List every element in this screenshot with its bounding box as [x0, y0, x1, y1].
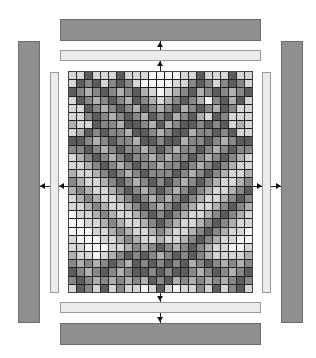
grid-cell: [141, 146, 148, 153]
grid-cell: [157, 219, 164, 226]
grid-cell: [141, 105, 148, 112]
grid-cell: [149, 121, 156, 128]
grid-cell: [157, 211, 164, 218]
grid-cell: [221, 105, 228, 112]
grid-cell: [173, 162, 180, 169]
grid-cell: [141, 285, 148, 292]
grid-cell: [141, 228, 148, 235]
grid-cell: [149, 260, 156, 267]
grid-cell: [213, 162, 220, 169]
grid-cell: [229, 187, 236, 194]
grid-cell: [77, 244, 84, 251]
arrow-up-icon: [157, 42, 163, 47]
grid-cell: [181, 228, 188, 235]
grid-cell: [125, 195, 132, 202]
grid-cell: [117, 203, 124, 210]
grid-cell: [93, 113, 100, 120]
grid-cell: [85, 137, 92, 144]
grid-cell: [157, 129, 164, 136]
grid-cell: [213, 195, 220, 202]
grid-cell: [197, 260, 204, 267]
grid-cell: [229, 219, 236, 226]
grid-cell: [205, 178, 212, 185]
grid-cell: [245, 154, 252, 161]
grid-cell: [165, 154, 172, 161]
grid-cell: [165, 178, 172, 185]
grid-cell: [77, 211, 84, 218]
grid-cell: [117, 268, 124, 275]
grid-cell: [133, 162, 140, 169]
grid-cell: [245, 228, 252, 235]
grid-cell: [165, 260, 172, 267]
grid-cell: [189, 113, 196, 120]
grid-cell: [101, 228, 108, 235]
grid-cell: [205, 137, 212, 144]
grid-cell: [165, 211, 172, 218]
grid-cell: [109, 268, 116, 275]
grid-cell: [237, 129, 244, 136]
grid-cell: [237, 146, 244, 153]
grid-cell: [157, 154, 164, 161]
grid-cell: [173, 195, 180, 202]
grid-cell: [197, 277, 204, 284]
arrow-left-icon: [40, 183, 45, 189]
grid-cell: [197, 187, 204, 194]
grid-cell: [141, 162, 148, 169]
grid-cell: [93, 105, 100, 112]
grid-cell: [229, 178, 236, 185]
grid-cell: [85, 285, 92, 292]
grid-cell: [245, 187, 252, 194]
grid-cell: [205, 97, 212, 104]
grid-cell: [69, 236, 76, 243]
grid-cell: [141, 219, 148, 226]
grid-cell: [173, 211, 180, 218]
grid-cell: [237, 252, 244, 259]
grid-cell: [181, 170, 188, 177]
grid-cell: [133, 72, 140, 79]
grid-cell: [93, 80, 100, 87]
grid-cell: [117, 244, 124, 251]
grid-cell: [197, 211, 204, 218]
grid-cell: [109, 244, 116, 251]
grid-cell: [189, 236, 196, 243]
grid-cell: [85, 121, 92, 128]
grid-cell: [93, 129, 100, 136]
grid-cell: [237, 162, 244, 169]
grid-cell: [69, 170, 76, 177]
grid-cell: [141, 268, 148, 275]
grid-cell: [245, 72, 252, 79]
grid-cell: [77, 252, 84, 259]
arrow-down-icon: [157, 296, 163, 301]
grid-cell: [229, 211, 236, 218]
grid-cell: [133, 203, 140, 210]
grid-cell: [69, 211, 76, 218]
arrow-up-icon: [157, 61, 163, 66]
grid-cell: [85, 277, 92, 284]
grid-cell: [205, 162, 212, 169]
grid-cell: [93, 252, 100, 259]
grid-cell: [149, 228, 156, 235]
grid-cell: [173, 129, 180, 136]
grid-cell: [85, 162, 92, 169]
grid-cell: [213, 80, 220, 87]
grid-cell: [77, 228, 84, 235]
central-grid: [68, 71, 253, 293]
bottom-inner-bar: [60, 302, 261, 313]
grid-cell: [101, 97, 108, 104]
grid-cell: [117, 97, 124, 104]
right-outer-bar: [281, 41, 303, 323]
grid-cell: [213, 137, 220, 144]
grid-cell: [165, 129, 172, 136]
grid-cell: [221, 236, 228, 243]
grid-cell: [165, 170, 172, 177]
grid-cell: [197, 219, 204, 226]
grid-cell: [213, 170, 220, 177]
grid-cell: [205, 146, 212, 153]
grid-cell: [77, 146, 84, 153]
grid-cell: [109, 162, 116, 169]
grid-cell: [197, 244, 204, 251]
grid-cell: [117, 88, 124, 95]
grid-cell: [245, 236, 252, 243]
grid-cell: [133, 105, 140, 112]
grid-cell: [149, 187, 156, 194]
